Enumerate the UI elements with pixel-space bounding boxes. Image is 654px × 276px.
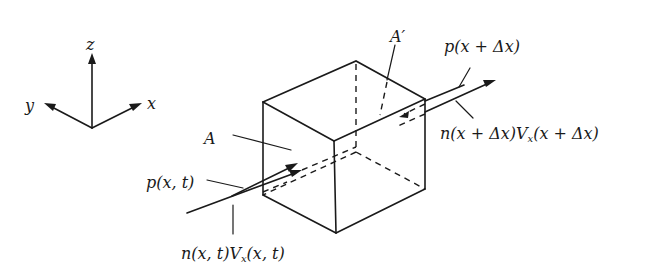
x-arrowhead-icon xyxy=(129,103,142,111)
labels: A A′ p(x, t) p(x + Δx) n(x, t)Vx(x, t) n… xyxy=(146,27,599,264)
flux-out-label: n(x + Δx)Vx(x + Δx) xyxy=(440,124,599,144)
flux-in-label: n(x, t)Vx(x, t) xyxy=(181,244,285,264)
cube-front-vertical-edge xyxy=(334,141,336,233)
cube-bottom-right-edge xyxy=(336,189,425,233)
cube-hidden-bottom-right-edge xyxy=(356,152,425,189)
flux-in-arrowhead-icon xyxy=(289,170,302,177)
flux-out-label-suffix: (x + Δx) xyxy=(533,124,599,143)
x-axis-label: x xyxy=(147,94,156,113)
leader-pressure-out xyxy=(459,68,470,87)
pressure-out-label: p(x + Δx) xyxy=(444,37,520,56)
control-volume-diagram: z y x xyxy=(0,0,654,276)
leader-pressure-in xyxy=(207,180,243,188)
cube-bottom-left-edge xyxy=(263,195,336,233)
cube-top-left-edge xyxy=(263,102,334,141)
leader-face-a-prime-hidden xyxy=(380,82,387,115)
y-axis-label: y xyxy=(24,96,35,115)
leader-flux-out xyxy=(456,101,473,118)
flux-out-label-prefix: n(x + Δx)V xyxy=(440,124,529,143)
face-a-prime-label: A′ xyxy=(388,27,406,46)
flux-out-arrowhead-icon xyxy=(483,80,496,87)
pressure-out-line xyxy=(425,85,464,101)
x-axis xyxy=(92,106,136,128)
flux-in-label-prefix: n(x, t)V xyxy=(181,244,242,263)
leader-face-a xyxy=(233,135,291,150)
cube-top-back-edges xyxy=(263,61,425,102)
cube xyxy=(263,61,425,233)
leader-lines xyxy=(207,45,473,234)
coordinate-axes: z y x xyxy=(24,35,156,128)
y-arrowhead-icon xyxy=(44,103,56,111)
pressure-in-arrow xyxy=(232,167,291,196)
z-arrowhead-icon xyxy=(88,53,96,64)
flux-in-hidden-path xyxy=(302,147,356,170)
face-a-label: A xyxy=(202,129,216,148)
z-axis-label: z xyxy=(85,35,95,54)
pressure-in-label: p(x, t) xyxy=(146,173,194,192)
outgoing-flux-arrows xyxy=(398,80,496,126)
flux-in-arrow xyxy=(187,173,295,213)
pressure-out-arrowhead-icon xyxy=(399,111,409,118)
leader-face-a-prime xyxy=(387,45,395,80)
incoming-flux-arrows xyxy=(187,147,356,213)
y-axis xyxy=(50,106,92,128)
flux-in-label-suffix: (x, t) xyxy=(247,244,285,263)
